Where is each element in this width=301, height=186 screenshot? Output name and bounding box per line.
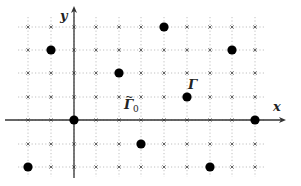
lattice-point [136, 139, 145, 148]
lattice-point [23, 162, 32, 171]
lattice-point [46, 45, 55, 54]
tilde-mark: ~ [125, 91, 133, 102]
x-axis-label: x [272, 99, 281, 114]
cross-marker-icon [139, 165, 142, 168]
lattice-point [182, 92, 191, 101]
subscript-zero: 0 [133, 104, 139, 114]
lattice-point [205, 162, 214, 171]
lattice-diagram: x y Γ Γ ~ 0 [0, 0, 301, 186]
gamma-tilde-zero-label: Γ ~ 0 [123, 91, 139, 114]
lattice-point [69, 115, 78, 124]
lattice-point [250, 115, 259, 124]
lattice-point [114, 68, 123, 77]
axes [5, 6, 286, 178]
lattice-point [159, 22, 168, 31]
gamma-label: Γ [187, 77, 198, 92]
lattice-point [227, 45, 236, 54]
y-axis-label: y [59, 8, 69, 23]
